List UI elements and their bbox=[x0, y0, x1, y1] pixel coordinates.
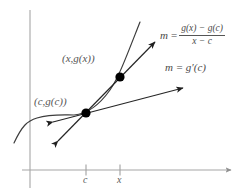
point-c-label: (c,g(c)) bbox=[34, 96, 67, 107]
tick-label-x: x bbox=[117, 175, 121, 185]
secant-slope-variable: m bbox=[160, 30, 168, 41]
secant-slope-label: m = g(x) − g(c) x − c bbox=[160, 24, 225, 46]
tangent-line bbox=[53, 88, 183, 122]
tick-label-c: c bbox=[83, 175, 87, 185]
point-c-marker bbox=[81, 108, 90, 117]
tangent-slope-label: m = g′(c) bbox=[165, 62, 206, 73]
point-x-marker bbox=[115, 72, 124, 81]
point-x-label: (x,g(x)) bbox=[62, 53, 95, 64]
secant-slope-fraction: g(x) − g(c) x − c bbox=[179, 24, 225, 46]
secant-tangent-diagram: m = g(x) − g(c) x − c m = g′(c) (x,g(x))… bbox=[0, 0, 247, 193]
function-curve bbox=[14, 22, 140, 143]
secant-slope-numerator: g(x) − g(c) bbox=[179, 24, 225, 35]
secant-slope-equals: = bbox=[171, 30, 177, 41]
secant-slope-denominator: x − c bbox=[179, 35, 225, 47]
